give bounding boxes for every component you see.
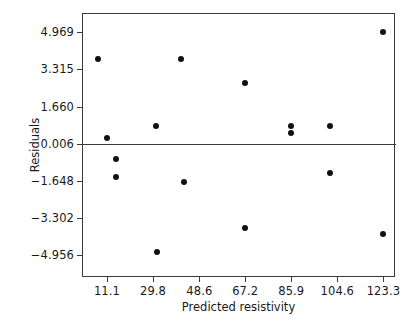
x-axis-title: Predicted resistivity [82, 300, 395, 314]
x-tick-mark [153, 276, 154, 282]
data-point [178, 56, 184, 62]
x-tick-label: 29.8 [140, 284, 166, 298]
data-point [95, 56, 101, 62]
y-tick-mark [77, 69, 83, 70]
data-point [181, 179, 187, 185]
x-tick-mark [337, 276, 338, 282]
y-axis-title: Residuals [28, 118, 42, 173]
data-point [113, 156, 119, 162]
data-point [242, 225, 248, 231]
y-tick-label: 0.006 [41, 137, 74, 151]
x-tick-mark [383, 276, 384, 282]
data-point [154, 249, 160, 255]
x-tick-label: 11.1 [94, 284, 120, 298]
y-tick-mark [77, 144, 83, 145]
y-tick-mark [77, 218, 83, 219]
data-point [288, 130, 294, 136]
data-point [104, 135, 110, 141]
y-tick-label: −1.648 [31, 174, 74, 188]
x-tick-label: 123.3 [367, 284, 400, 298]
data-point [113, 174, 119, 180]
plot-area: 4.9693.3151.6600.006−1.648−3.302−4.956 1… [82, 13, 395, 277]
data-point [242, 80, 248, 86]
y-tick-mark [77, 32, 83, 33]
y-tick-label: 3.315 [41, 62, 74, 76]
data-point [288, 123, 294, 129]
data-point [380, 29, 386, 35]
data-point [327, 123, 333, 129]
x-tick-mark [291, 276, 292, 282]
y-tick-mark [77, 107, 83, 108]
x-tick-label: 104.6 [321, 284, 354, 298]
residual-plot-figure: 4.9693.3151.6600.006−1.648−3.302−4.956 1… [0, 0, 409, 322]
x-tick-label: 48.6 [186, 284, 212, 298]
data-point [153, 123, 159, 129]
x-tick-mark [245, 276, 246, 282]
y-tick-label: 1.660 [41, 100, 74, 114]
x-tick-label: 85.9 [278, 284, 304, 298]
y-tick-label: −4.956 [31, 248, 74, 262]
zero-reference-line [83, 144, 396, 145]
x-tick-label: 67.2 [232, 284, 258, 298]
x-tick-mark [199, 276, 200, 282]
data-point [327, 170, 333, 176]
y-tick-mark [77, 255, 83, 256]
data-point [380, 231, 386, 237]
y-tick-label: −3.302 [31, 211, 74, 225]
y-tick-mark [77, 181, 83, 182]
y-tick-label: 4.969 [41, 25, 74, 39]
x-tick-mark [107, 276, 108, 282]
